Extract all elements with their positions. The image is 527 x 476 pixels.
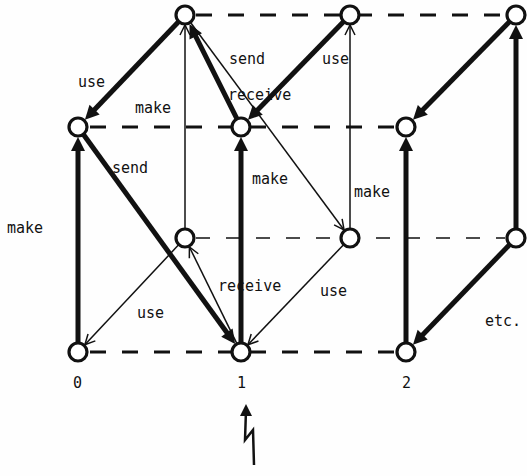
edge-K-G-receive — [189, 247, 237, 344]
state-node-H — [341, 229, 359, 247]
label-use-lower-left: use — [137, 304, 164, 322]
edge-G-J-use — [85, 245, 179, 345]
edge-C-F — [413, 21, 510, 119]
label-receive-upper: receive — [228, 86, 291, 104]
label-make-upper-mid: make — [135, 99, 171, 117]
arrowhead-icon — [509, 25, 523, 39]
edge-I-C — [509, 25, 523, 229]
column-index-1: 1 — [237, 374, 246, 392]
label-make-right: make — [354, 183, 390, 201]
edge-J-D-make — [71, 137, 85, 343]
label-send-upper: send — [229, 50, 265, 68]
edge-line — [189, 247, 237, 344]
label-use-lower-right: use — [320, 282, 347, 300]
edges — [71, 21, 523, 344]
edge-K-E-make — [234, 137, 248, 343]
arrowhead-icon — [71, 137, 85, 151]
state-node-C — [507, 6, 525, 24]
label-receive-lower: receive — [218, 277, 281, 295]
state-node-B — [341, 6, 359, 24]
state-node-A — [176, 6, 194, 24]
edge-line — [85, 245, 179, 345]
edge-line — [421, 21, 509, 111]
state-node-E — [232, 118, 250, 136]
state-node-L — [397, 343, 415, 361]
state-node-J — [69, 343, 87, 361]
state-node-G — [176, 229, 194, 247]
label-send-mid-left: send — [112, 159, 148, 177]
column-index-0: 0 — [73, 374, 82, 392]
state-diagram: use make send use receive send make make… — [0, 0, 527, 476]
edge-E-A-receive — [189, 24, 237, 119]
edge-B-E-use — [248, 21, 344, 119]
state-node-F — [397, 118, 415, 136]
label-use-top-left: use — [78, 73, 105, 91]
label-make-left: make — [7, 219, 43, 237]
arrowhead-icon — [234, 137, 248, 151]
label-use-upper-right: use — [322, 50, 349, 68]
label-make-mid: make — [252, 170, 288, 188]
edge-L-F — [399, 137, 413, 343]
edge-line — [93, 22, 179, 112]
lightning-arrow-icon — [240, 404, 254, 465]
state-node-I — [507, 229, 525, 247]
state-node-D — [69, 118, 87, 136]
label-etc: etc. — [485, 312, 521, 330]
column-index-2: 2 — [402, 374, 411, 392]
arrowhead-icon — [399, 137, 413, 151]
state-node-K — [232, 343, 250, 361]
